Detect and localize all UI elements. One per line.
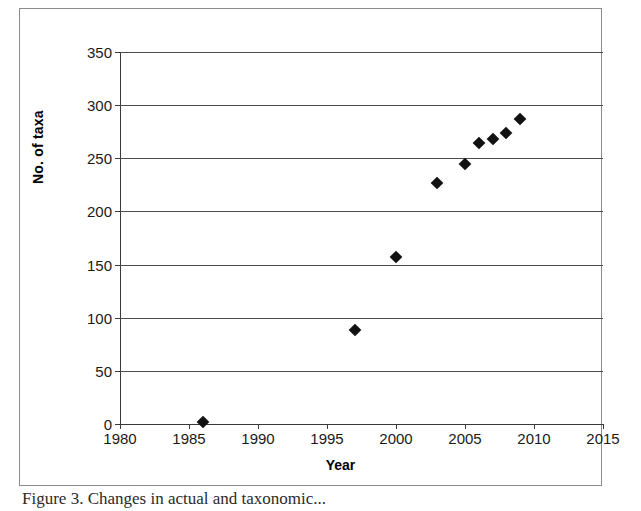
y-tick-label-250: 250 bbox=[87, 151, 112, 166]
x-tick-1990 bbox=[258, 424, 259, 429]
x-tick-label-1990: 1990 bbox=[241, 431, 274, 446]
x-tick-label-2015: 2015 bbox=[586, 431, 619, 446]
x-axis-title: Year bbox=[20, 457, 601, 473]
gridline-y-0 bbox=[120, 424, 603, 425]
y-tick-label-150: 150 bbox=[87, 258, 112, 273]
y-tick-label-350: 350 bbox=[87, 45, 112, 60]
y-tick-350 bbox=[115, 52, 120, 53]
data-point bbox=[196, 415, 209, 428]
x-tick-label-2010: 2010 bbox=[517, 431, 550, 446]
x-axis-tick-labels: 19801985199019952000200520102015 bbox=[120, 431, 603, 453]
figure-frame: 050100150200250300350 No. of taxa 198019… bbox=[19, 8, 602, 486]
y-tick-label-300: 300 bbox=[87, 98, 112, 113]
data-point bbox=[431, 176, 444, 189]
x-tick-1995 bbox=[327, 424, 328, 429]
y-axis-line bbox=[120, 52, 121, 424]
gridline-y-250 bbox=[120, 158, 603, 159]
y-axis-tick-labels: 050100150200250300350 bbox=[70, 52, 112, 424]
y-tick-150 bbox=[115, 265, 120, 266]
y-tick-300 bbox=[115, 105, 120, 106]
data-point bbox=[514, 113, 527, 126]
plot-area bbox=[120, 52, 603, 424]
y-axis-title: No. of taxa bbox=[30, 110, 46, 184]
y-tick-label-100: 100 bbox=[87, 311, 112, 326]
data-point bbox=[486, 133, 499, 146]
data-point bbox=[348, 324, 361, 337]
x-tick-label-1985: 1985 bbox=[172, 431, 205, 446]
y-tick-label-200: 200 bbox=[87, 204, 112, 219]
x-tick-1980 bbox=[120, 424, 121, 429]
x-tick-label-1980: 1980 bbox=[103, 431, 136, 446]
figure-caption: Figure 3. Changes in actual and taxonomi… bbox=[22, 489, 622, 509]
x-tick-2015 bbox=[603, 424, 604, 429]
data-point bbox=[500, 126, 513, 139]
y-tick-200 bbox=[115, 211, 120, 212]
x-tick-1985 bbox=[189, 424, 190, 429]
x-tick-2005 bbox=[465, 424, 466, 429]
x-tick-2000 bbox=[396, 424, 397, 429]
gridline-y-200 bbox=[120, 211, 603, 212]
gridline-y-50 bbox=[120, 371, 603, 372]
x-tick-label-2005: 2005 bbox=[448, 431, 481, 446]
gridline-y-100 bbox=[120, 318, 603, 319]
y-tick-100 bbox=[115, 318, 120, 319]
x-tick-label-1995: 1995 bbox=[310, 431, 343, 446]
gridline-y-150 bbox=[120, 265, 603, 266]
gridline-y-300 bbox=[120, 105, 603, 106]
data-point bbox=[390, 251, 403, 264]
x-tick-2010 bbox=[534, 424, 535, 429]
y-tick-250 bbox=[115, 158, 120, 159]
y-tick-50 bbox=[115, 371, 120, 372]
data-point bbox=[472, 137, 485, 150]
y-tick-label-50: 50 bbox=[95, 364, 112, 379]
x-tick-label-2000: 2000 bbox=[379, 431, 412, 446]
gridline-y-350 bbox=[120, 52, 603, 53]
